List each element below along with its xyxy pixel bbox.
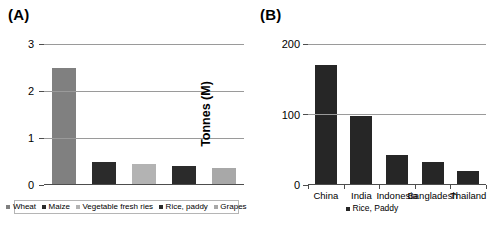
x-tick-mark: [344, 185, 345, 189]
bar-slot: [124, 44, 164, 185]
legend-entry[interactable]: Rice, paddy: [159, 203, 208, 211]
legend-label: Rice, Paddy: [353, 204, 399, 213]
panel-b-x-axis: [308, 184, 486, 185]
y-tick-label: 100: [274, 109, 300, 121]
legend-label: Grapes: [220, 203, 246, 211]
panel-b-legend: Rice, Paddy: [346, 202, 398, 215]
legend-entry[interactable]: Vegetable fresh ries: [76, 203, 153, 211]
bar[interactable]: [92, 162, 116, 186]
y-tick-mark: [303, 114, 308, 115]
x-tick-mark: [415, 185, 416, 189]
panel-a-x-axis: [44, 184, 244, 185]
panel-b-y-axis-title: Tonnes (M): [199, 81, 213, 147]
y-tick-mark: [39, 185, 44, 186]
x-tick-label: Thailand: [450, 190, 486, 201]
x-tick-mark: [379, 185, 380, 189]
legend-swatch-icon: [214, 205, 218, 209]
legend-label: Vegetable fresh ries: [82, 203, 153, 211]
legend-entry[interactable]: Grapes: [214, 203, 247, 211]
panel-b-label: (B): [260, 6, 281, 23]
bar-slot: [44, 44, 84, 185]
bar[interactable]: [172, 166, 196, 185]
legend-swatch-icon: [76, 205, 80, 209]
x-tick-label: China: [313, 190, 338, 201]
y-tick-label: 2: [14, 85, 34, 97]
panel-a-legend: WheatMaizeVegetable fresh riesRice, padd…: [14, 200, 239, 214]
bar[interactable]: [386, 155, 408, 185]
figure-container: (A) Tonnes (M) 0123 WheatMaizeVegetable …: [0, 0, 492, 228]
bar[interactable]: [457, 171, 479, 185]
legend-label: Rice, paddy: [166, 203, 208, 211]
y-tick-mark: [39, 44, 44, 45]
x-tick-mark: [308, 185, 309, 189]
legend-swatch-icon: [159, 205, 163, 209]
panel-a-label: (A): [8, 6, 29, 23]
y-tick-label: 0: [14, 179, 34, 191]
legend-label: Maize: [49, 203, 70, 211]
legend-entry[interactable]: Maize: [42, 203, 70, 211]
x-tick-mark: [486, 185, 487, 189]
legend-swatch-icon: [6, 205, 10, 209]
panel-b: (B) Tonnes (M) 0100200 Rice, Paddy China…: [246, 0, 492, 228]
x-tick-label: India: [351, 190, 372, 201]
bar-slot: [164, 44, 204, 185]
legend-entry[interactable]: Wheat: [6, 203, 36, 211]
legend-swatch-icon: [346, 207, 350, 211]
y-tick-mark: [39, 91, 44, 92]
bar[interactable]: [132, 164, 156, 185]
bar[interactable]: [422, 162, 444, 185]
bar[interactable]: [315, 65, 337, 185]
x-tick-mark: [450, 185, 451, 189]
y-tick-label: 200: [274, 38, 300, 50]
bar[interactable]: [350, 116, 372, 185]
gridline: [44, 138, 244, 139]
gridline: [308, 44, 486, 45]
gridline: [44, 91, 244, 92]
y-tick-mark: [303, 44, 308, 45]
panel-a-plot-area: 0123: [44, 44, 244, 185]
legend-swatch-icon: [42, 205, 46, 209]
legend-entry[interactable]: Rice, Paddy: [346, 204, 398, 213]
panel-a-bars: [44, 44, 244, 185]
y-tick-mark: [39, 138, 44, 139]
gridline: [308, 114, 486, 115]
bar-slot: [84, 44, 124, 185]
panel-b-plot-area: 0100200: [308, 44, 486, 185]
y-tick-label: 3: [14, 38, 34, 50]
legend-label: Wheat: [13, 203, 36, 211]
y-tick-label: 0: [274, 179, 300, 191]
bar[interactable]: [212, 168, 236, 185]
bar[interactable]: [52, 68, 76, 186]
y-tick-label: 1: [14, 132, 34, 144]
gridline: [44, 44, 244, 45]
